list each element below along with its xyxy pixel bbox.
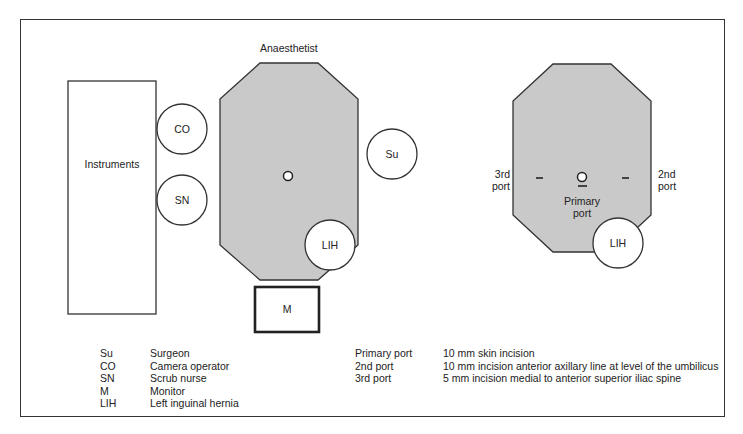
- primary-port-label-line1: Primary: [564, 195, 600, 207]
- legend-abbr: CO: [100, 360, 150, 373]
- monitor-label: M: [255, 303, 319, 315]
- primary-port-label: Primary port: [552, 195, 612, 219]
- port-name: Primary port: [355, 347, 443, 360]
- lih-label-left: LIH: [305, 239, 355, 251]
- legend-abbr: M: [100, 385, 150, 398]
- third-port-label-line2: port: [492, 180, 510, 192]
- instruments-table: [68, 81, 156, 314]
- port-name: 2nd port: [355, 360, 443, 373]
- legend-row: LIHLeft inguinal hernia: [100, 397, 239, 410]
- legend-row: COCamera operator: [100, 360, 239, 373]
- second-port-label: 2nd port: [658, 168, 676, 192]
- legend-row: SNScrub nurse: [100, 372, 239, 385]
- legend-row: MMonitor: [100, 385, 239, 398]
- port-description: 5 mm incision medial to anterior superio…: [443, 372, 681, 385]
- port-legend-row: 3rd port5 mm incision medial to anterior…: [355, 372, 718, 385]
- instruments-label: Instruments: [68, 158, 156, 170]
- sn-label: SN: [157, 194, 207, 206]
- legend-meaning: Surgeon: [150, 347, 190, 360]
- second-port-label-line2: port: [658, 180, 676, 192]
- port-description: 10 mm incision anterior axillary line at…: [443, 360, 718, 373]
- roles-legend: SuSurgeon COCamera operator SNScrub nurs…: [100, 347, 239, 410]
- co-label: CO: [157, 123, 207, 135]
- lih-label-right: LIH: [593, 237, 643, 249]
- third-port-label-line1: 3rd: [495, 168, 510, 180]
- primary-port-marker: [578, 173, 587, 182]
- legend-row: SuSurgeon: [100, 347, 239, 360]
- legend-meaning: Camera operator: [150, 360, 229, 373]
- legend-meaning: Scrub nurse: [150, 372, 207, 385]
- third-port-label: 3rd port: [490, 168, 510, 192]
- legend-abbr: Su: [100, 347, 150, 360]
- port-legend-row: Primary port10 mm skin incision: [355, 347, 718, 360]
- anaesthetist-label: Anaesthetist: [260, 42, 318, 54]
- port-legend-row: 2nd port10 mm incision anterior axillary…: [355, 360, 718, 373]
- ports-legend: Primary port10 mm skin incision 2nd port…: [355, 347, 718, 385]
- port-name: 3rd port: [355, 372, 443, 385]
- legend-abbr: LIH: [100, 397, 150, 410]
- umbilicus-marker: [284, 172, 293, 181]
- legend-abbr: SN: [100, 372, 150, 385]
- su-label: Su: [367, 148, 417, 160]
- primary-port-label-line2: port: [573, 207, 591, 219]
- legend-meaning: Left inguinal hernia: [150, 397, 239, 410]
- legend-meaning: Monitor: [150, 385, 185, 398]
- port-description: 10 mm skin incision: [443, 347, 535, 360]
- second-port-label-line1: 2nd: [658, 168, 676, 180]
